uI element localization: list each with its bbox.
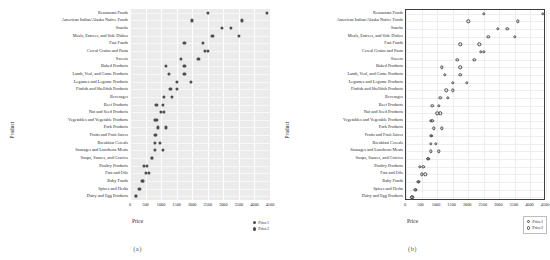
data-point: [487, 35, 490, 38]
data-point: [156, 126, 159, 129]
gridline-vertical: [270, 9, 271, 200]
gridline-horizontal: [406, 106, 544, 107]
gridline-horizontal: [406, 98, 544, 99]
data-point: [451, 81, 454, 84]
y-axis-tick-label: Fruits and Fruit Juices: [90, 133, 128, 137]
data-point: [240, 19, 243, 22]
data-point: [265, 11, 268, 14]
y-axis-tick-label: Legumes and Legume Products: [74, 79, 128, 83]
data-point: [155, 103, 158, 106]
gridline-horizontal: [406, 174, 544, 175]
gridline-horizontal: [406, 37, 544, 38]
gridline-horizontal: [406, 136, 544, 137]
gridline-vertical: [515, 10, 516, 199]
y-axis-tick-label: Pork Products: [104, 125, 128, 129]
y-axis-tick-label: Fast Foods: [384, 41, 403, 45]
data-point: [411, 195, 414, 198]
gridline-horizontal: [406, 29, 544, 30]
data-point: [161, 149, 164, 152]
y-axis-tick-label: Sausages and Luncheon Meats: [75, 148, 128, 152]
data-point: [414, 188, 417, 191]
data-point: [440, 66, 443, 69]
y-axis-tick-label: Fats and Oils: [105, 171, 128, 175]
data-point: [164, 126, 167, 129]
data-point: [169, 88, 172, 91]
x-axis-tick-label: 2000: [188, 202, 197, 207]
gridline-horizontal: [130, 112, 270, 113]
x-axis-tick-label: 2000: [463, 202, 472, 207]
data-point: [170, 95, 173, 98]
data-point: [421, 165, 424, 168]
gridline-vertical: [406, 10, 407, 199]
data-point: [142, 179, 145, 182]
gridline-horizontal: [130, 66, 270, 67]
data-point: [505, 27, 508, 30]
data-point: [237, 34, 240, 37]
gridline-vertical: [499, 10, 500, 199]
x-axis-tick-label: 1000: [432, 202, 441, 207]
x-axis-title-a: Price: [0, 218, 275, 224]
data-point: [183, 72, 186, 75]
data-point: [429, 150, 432, 153]
y-axis-tick-label: Baby Foods: [107, 179, 128, 183]
data-point: [138, 187, 141, 190]
gridline-horizontal: [406, 190, 544, 191]
y-axis-tick-label: Restaurant Foods: [373, 11, 403, 15]
gridline-horizontal: [406, 167, 544, 168]
y-axis-tick-label: Fats and Oils: [380, 171, 403, 175]
gridline-horizontal: [406, 151, 544, 152]
data-point: [516, 20, 519, 23]
x-axis-tick-label: 1000: [157, 202, 166, 207]
x-axis-tick-labels-b: 050010001500200025003000350040004500: [405, 202, 545, 212]
gridline-horizontal: [406, 14, 544, 15]
gridline-horizontal: [130, 36, 270, 37]
y-axis-tick-labels-a: Restaurant FoodsAmerican Indian/Alaska N…: [12, 9, 128, 200]
data-point: [135, 195, 138, 198]
legend-label: Price2: [532, 225, 543, 231]
x-axis-tick-label: 4000: [525, 202, 534, 207]
x-axis-tick-label: 1500: [447, 202, 456, 207]
legend-item-price2-a: Price2: [253, 226, 269, 232]
data-point: [163, 95, 166, 98]
plot-area-a: [130, 9, 270, 200]
y-axis-tick-label: Spices and Herbs: [98, 186, 128, 190]
x-axis-title-b: Price: [275, 218, 550, 224]
data-point: [439, 111, 442, 114]
legend-b: Price1 Price2: [523, 216, 547, 234]
x-axis-tick-labels-a: 050010001500200025003000350040004500: [130, 202, 270, 212]
data-point: [175, 80, 178, 83]
y-axis-tick-label: Soups, Sauces, and Gravies: [356, 156, 403, 160]
caption-b: (b): [275, 245, 550, 252]
y-axis-tick-label: Cereal Grains and Pasta: [362, 49, 403, 53]
gridline-horizontal: [406, 197, 544, 198]
data-point: [440, 127, 443, 130]
data-point: [211, 34, 214, 37]
y-axis-tick-label: Restaurant Foods: [98, 11, 128, 15]
figure-two-panel-dotplots: Product Restaurant FoodsAmerican Indian/…: [0, 0, 550, 260]
gridline-horizontal: [130, 82, 270, 83]
y-axis-tick-label: Vegetables and Vegetable Products: [68, 118, 128, 122]
x-axis-tick-label: 4500: [266, 202, 275, 207]
data-point: [161, 103, 164, 106]
x-axis-tick-label: 3500: [235, 202, 244, 207]
y-axis-tick-label: Vegetables and Vegetable Products: [343, 118, 403, 122]
y-axis-tick-label: Nut and Seed Products: [89, 110, 128, 114]
y-axis-tick-label: Beef Products: [379, 102, 403, 106]
data-point: [167, 72, 170, 75]
y-axis-tick-label: Beef Products: [104, 102, 128, 106]
plot-area-b: [405, 9, 545, 200]
y-axis-tick-label: Dairy and Egg Products: [362, 194, 403, 198]
x-axis-tick-label: 3000: [219, 202, 228, 207]
x-axis-tick-label: 0: [129, 202, 131, 207]
y-axis-tick-label: Finfish and Shellfish Products: [351, 87, 403, 91]
gridline-horizontal: [406, 128, 544, 129]
gridline-horizontal: [406, 113, 544, 114]
data-point: [456, 58, 459, 61]
gridline-horizontal: [406, 52, 544, 53]
data-point: [429, 142, 432, 145]
data-point: [230, 27, 233, 30]
data-point: [473, 58, 476, 61]
gridline-horizontal: [406, 121, 544, 122]
panel-a: Product Restaurant FoodsAmerican Indian/…: [0, 0, 275, 260]
gridline-horizontal: [406, 21, 544, 22]
